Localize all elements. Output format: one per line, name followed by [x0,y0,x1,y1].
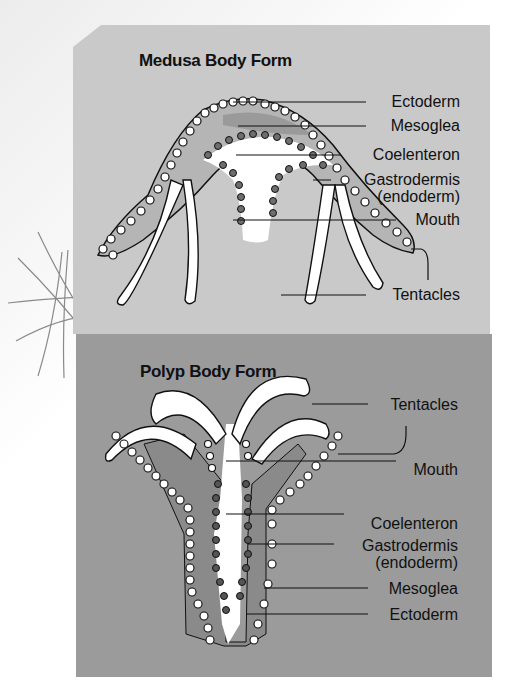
medusa-label-tentacles: Tentacles [392,286,460,303]
polyp-label-endoderm: (endoderm) [375,554,458,571]
polyp-title: Polyp Body Form [140,362,276,382]
medusa-title: Medusa Body Form [139,51,292,71]
polyp-label-coelenteron: Coelenteron [371,515,458,532]
polyp-label-mesoglea: Mesoglea [389,580,458,597]
medusa-label-mouth: Mouth [416,211,460,228]
medusa-panel: Medusa Body Form Ectoderm Mesoglea Coele… [73,25,490,334]
polyp-label-tentacles: Tentacles [390,396,458,413]
polyp-label-mouth: Mouth [414,461,458,478]
polyp-label-gastrodermis: Gastrodermis [362,537,458,554]
polyp-panel: Polyp Body Form Tentacles Mouth Coelente… [76,334,492,677]
medusa-label-coelenteron: Coelenteron [373,146,460,163]
medusa-label-mesoglea: Mesoglea [391,117,460,134]
polyp-illustration [76,334,492,677]
polyp-label-ectoderm: Ectoderm [390,606,458,623]
medusa-label-ectoderm: Ectoderm [392,93,460,110]
medusa-label-endoderm: (endoderm) [377,188,460,205]
medusa-label-gastrodermis: Gastrodermis [364,171,460,188]
